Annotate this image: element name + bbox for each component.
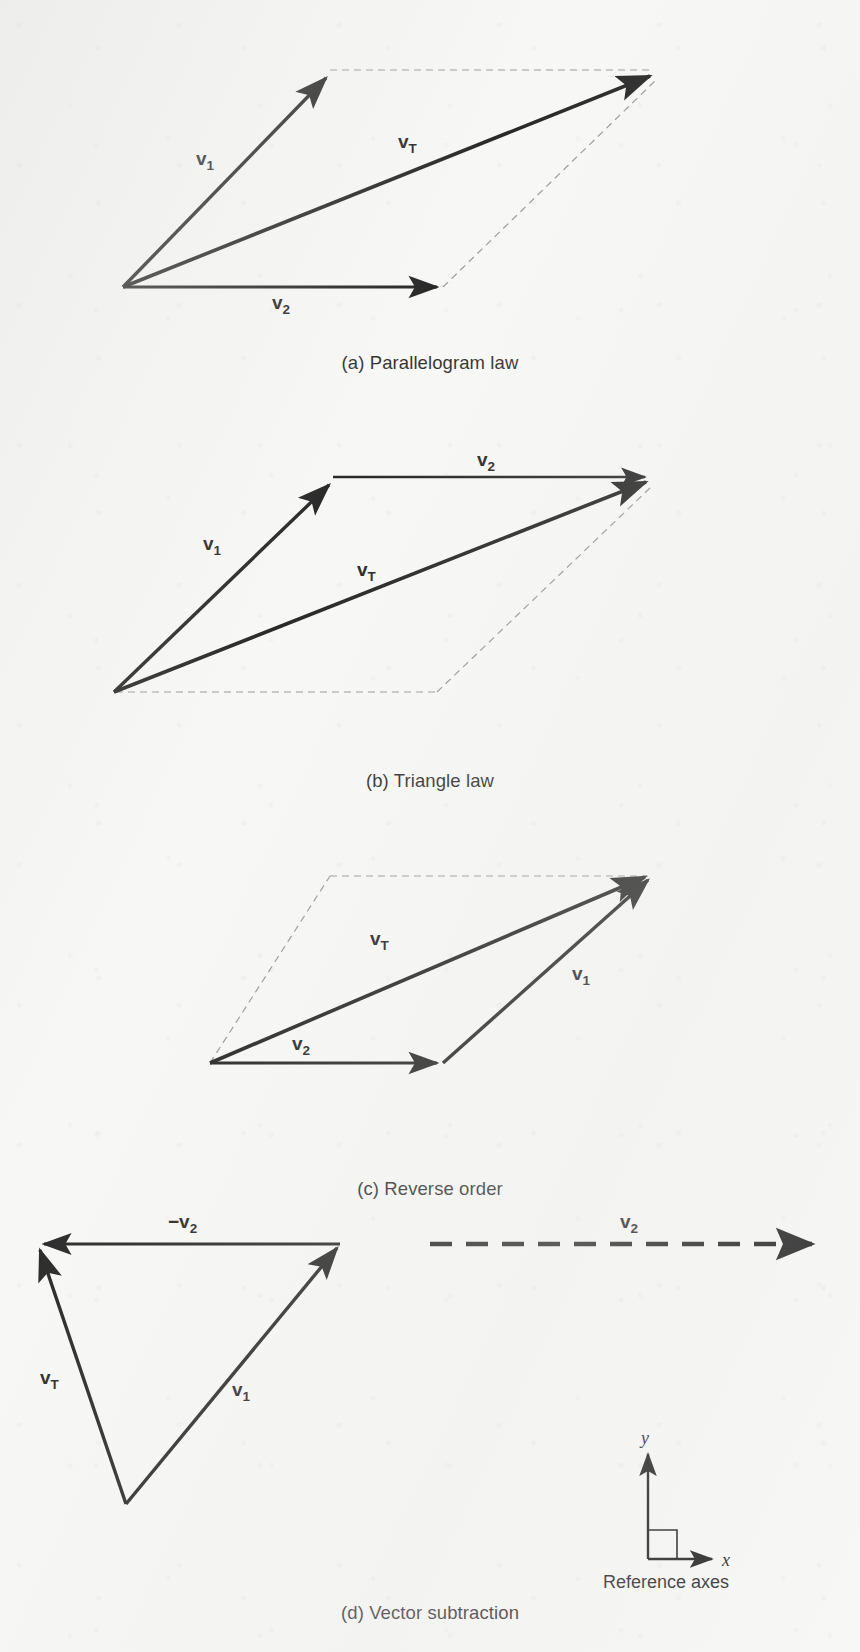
label-v1: v1: [196, 148, 215, 173]
figure-b-svg: v1 v2 vT: [0, 440, 860, 730]
label-v2: v2: [477, 449, 495, 474]
label-v2: v2: [292, 1033, 310, 1058]
caption-figure-a: (a) Parallelogram law: [0, 352, 860, 374]
label-v1: v1: [232, 1379, 251, 1404]
figure-reverse-order: v2 v1 vT: [0, 860, 860, 1090]
label-vt: vT: [40, 1367, 60, 1392]
label-vt: vT: [398, 131, 418, 156]
vector-v1: [126, 1248, 337, 1504]
label-v1: v1: [572, 963, 591, 988]
label-vt: vT: [370, 928, 390, 953]
construction-line-right: [443, 80, 656, 287]
vector-v1: [443, 880, 648, 1063]
reference-axes-caption: Reference axes: [603, 1572, 729, 1593]
reference-axes-inset: x y: [639, 1428, 730, 1570]
caption-figure-c: (c) Reverse order: [0, 1178, 860, 1200]
construction-line-right: [437, 488, 650, 692]
caption-figure-d: (d) Vector subtraction: [0, 1602, 860, 1624]
x-axis-label: x: [721, 1550, 730, 1570]
figure-triangle-law: v1 v2 vT: [0, 440, 860, 730]
label-negative-v2: −v2: [168, 1211, 197, 1236]
right-angle-marker: [648, 1530, 677, 1559]
figure-a-svg: v1 v2 vT: [0, 0, 860, 340]
construction-line-left: [210, 876, 330, 1063]
vector-v1: [123, 78, 326, 287]
label-v2: v2: [272, 292, 290, 317]
caption-figure-b: (b) Triangle law: [0, 770, 860, 792]
figure-parallelogram-law: v1 v2 vT: [0, 0, 860, 340]
label-vt: vT: [357, 559, 377, 584]
y-axis-label: y: [639, 1428, 649, 1448]
figure-c-svg: v2 v1 vT: [0, 860, 860, 1090]
figure-d-svg: −v2 v2 v1 vT x y: [0, 1210, 860, 1590]
vector-vt: [114, 482, 646, 692]
label-v2: v2: [620, 1211, 638, 1236]
label-v1: v1: [203, 533, 222, 558]
figure-vector-subtraction: −v2 v2 v1 vT x y: [0, 1210, 860, 1590]
vector-v1: [114, 485, 329, 692]
vector-vt: [123, 76, 650, 287]
